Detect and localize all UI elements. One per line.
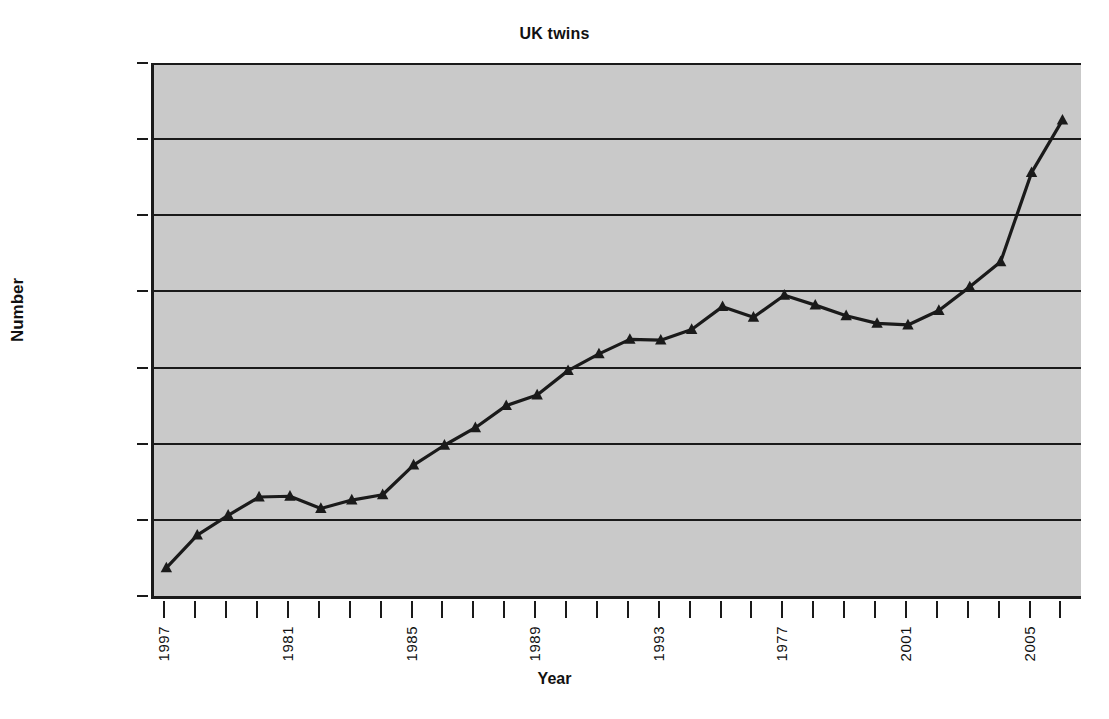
x-tick-mark [380,601,382,618]
x-tick-mark [256,601,258,618]
data-series-uk-twins [154,63,1081,596]
y-tick-mark [137,214,148,216]
x-tick-label: 1977 [773,626,790,661]
x-tick-mark [905,601,907,618]
x-tick-mark [163,601,165,618]
data-point-marker [779,289,790,300]
y-axis-title: Number [8,278,28,342]
x-tick-mark [812,601,814,618]
x-tick-mark [658,601,660,618]
y-tick-mark [137,367,148,369]
plot-area [151,63,1081,599]
chart-figure: UK twins Number 5,0006,0007,0008,0009,00… [0,0,1109,719]
y-tick-mark [137,138,148,140]
plot-inner [154,63,1081,596]
series-line [166,120,1062,568]
x-axis-title: Year [0,670,1109,688]
x-tick-mark [998,601,1000,618]
y-tick-mark [137,519,148,521]
x-tick-mark [936,601,938,618]
x-tick-mark [349,601,351,618]
x-tick-mark [225,601,227,618]
x-tick-label: 2001 [897,626,914,661]
x-tick-mark [596,601,598,618]
x-tick-mark [843,601,845,618]
x-tick-mark [534,601,536,618]
x-tick-mark [874,601,876,618]
x-tick-mark [287,601,289,618]
y-tick-mark [137,290,148,292]
x-tick-mark [503,601,505,618]
x-tick-mark [565,601,567,618]
x-tick-mark [781,601,783,618]
x-tick-mark [689,601,691,618]
y-tick-mark [137,62,148,64]
x-tick-label: 1981 [279,626,296,661]
x-tick-label: 1989 [526,626,543,661]
x-tick-mark [967,601,969,618]
data-point-marker [995,256,1006,267]
x-tick-mark [627,601,629,618]
x-tick-mark [194,601,196,618]
y-tick-mark [137,595,148,597]
chart-title: UK twins [0,25,1109,43]
x-tick-label: 1985 [403,626,420,661]
x-tick-mark [720,601,722,618]
x-tick-mark [1029,601,1031,618]
y-tick-mark [137,443,148,445]
data-point-marker [1057,114,1068,125]
data-point-marker [717,300,728,311]
x-tick-mark [472,601,474,618]
x-tick-mark [441,601,443,618]
x-tick-label: 1993 [650,626,667,661]
x-tick-mark [318,601,320,618]
x-tick-label: 2005 [1021,626,1038,661]
x-tick-mark [411,601,413,618]
x-tick-mark [750,601,752,618]
x-tick-label: 1997 [155,626,172,661]
x-tick-mark [1059,601,1061,618]
